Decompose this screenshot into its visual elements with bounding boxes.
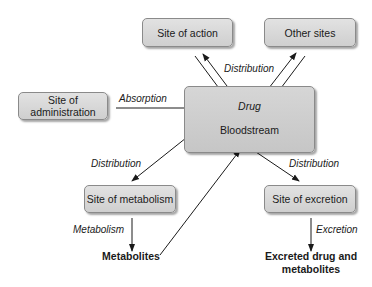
bloodstream-label: Bloodstream [220, 124, 279, 136]
metabolism-label: Metabolism [73, 224, 124, 235]
site-of-metabolism-node: Site of metabolism [84, 185, 176, 213]
site-of-excretion-node: Site of excretion [264, 185, 356, 213]
site-of-excretion-label: Site of excretion [272, 193, 347, 205]
metabolites-node: Metabolites [96, 250, 166, 263]
other-sites-node: Other sites [264, 18, 356, 47]
site-of-administration-label-1: Site of [48, 94, 78, 106]
excretion-label: Excretion [316, 224, 358, 235]
site-of-administration-label-2: administration [30, 106, 95, 118]
distribution-top-label: Distribution [224, 63, 274, 74]
other-sites-label: Other sites [285, 27, 336, 39]
distribution-right-label: Distribution [289, 158, 339, 169]
drug-label: Drug [238, 100, 261, 112]
site-of-administration-node: Site of administration [18, 92, 108, 120]
excreted-label-2: metabolites [260, 263, 362, 276]
absorption-label: Absorption [119, 93, 167, 104]
site-of-action-label: Site of action [157, 27, 218, 39]
excreted-node: Excreted drug and metabolites [260, 250, 362, 276]
distribution-left-label: Distribution [91, 158, 141, 169]
metabolites-label: Metabolites [102, 250, 160, 262]
bloodstream-node: Drug Bloodstream [184, 86, 315, 153]
site-of-action-node: Site of action [142, 18, 233, 47]
excreted-label-1: Excreted drug and [260, 250, 362, 263]
site-of-metabolism-label: Site of metabolism [87, 193, 173, 205]
